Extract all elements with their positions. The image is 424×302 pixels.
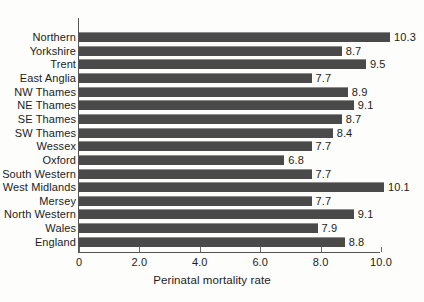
x-tick-label: 4.0 [192,256,208,268]
bar [79,87,348,97]
bar-value-label: 8.8 [349,235,365,249]
bar-value-label: 7.9 [322,221,338,235]
category-label: West Midlands [0,180,76,194]
bar-row: West Midlands10.1 [0,180,424,194]
bar-value-label: 8.4 [337,126,353,140]
bar-row: South Western7.7 [0,167,424,181]
bar-value-label: 9.5 [370,57,386,71]
category-label: Mersey [0,194,76,208]
bar-row: England8.8 [0,235,424,249]
x-tick [260,247,261,252]
bar-value-label: 6.8 [288,153,304,167]
x-tick-label: 8.0 [313,256,329,268]
bar [79,141,312,151]
bar-row: Wales7.9 [0,221,424,235]
bar [79,182,384,192]
bar-value-label: 7.7 [316,167,332,181]
bar-value-label: 7.7 [316,139,332,153]
bar-row: Northern10.3 [0,30,424,44]
bar [79,46,342,56]
x-tick [139,247,140,252]
bar-value-label: 10.1 [388,180,410,194]
bar [79,169,312,179]
x-tick [321,247,322,252]
bar-value-label: 9.1 [358,98,374,112]
x-tick-label: 6.0 [252,256,268,268]
x-tick [381,247,382,252]
x-axis-title: Perinatal mortality rate [0,274,424,286]
bar [79,128,333,138]
bar-row: East Anglia7.7 [0,71,424,85]
category-label: Trent [0,57,76,71]
category-label: Wales [0,221,76,235]
bar-value-label: 8.7 [346,112,362,126]
bar [79,32,390,42]
bar [79,196,312,206]
bar-row: Mersey7.7 [0,194,424,208]
bar-value-label: 8.9 [352,85,368,99]
bar-value-label: 8.7 [346,44,362,58]
bar-row: SE Thames8.7 [0,112,424,126]
bar-value-label: 7.7 [316,194,332,208]
bar-row: NE Thames9.1 [0,98,424,112]
bar [79,237,345,247]
category-label: NE Thames [0,98,76,112]
category-label: South Western [0,167,76,181]
category-label: North Western [0,207,76,221]
category-label: Northern [0,30,76,44]
bar [79,155,284,165]
x-axis-line [78,252,380,253]
category-label: Oxford [0,153,76,167]
bar [79,223,318,233]
bar [79,209,354,219]
bar-row: Yorkshire8.7 [0,44,424,58]
x-tick-label: 10.0 [370,256,392,268]
x-tick [200,247,201,252]
bar-row: Wessex7.7 [0,139,424,153]
bar-value-label: 10.3 [394,30,416,44]
bar-value-label: 9.1 [358,207,374,221]
x-tick-label: 2.0 [132,256,148,268]
bar-row: SW Thames8.4 [0,126,424,140]
bar [79,100,354,110]
category-label: NW Thames [0,85,76,99]
bar-value-label: 7.7 [316,71,332,85]
bar-row: North Western9.1 [0,207,424,221]
category-label: England [0,235,76,249]
x-tick [79,247,80,252]
category-label: Wessex [0,139,76,153]
bar-chart: Northern10.3Yorkshire8.7Trent9.5East Ang… [0,0,424,302]
category-label: Yorkshire [0,44,76,58]
category-label: SE Thames [0,112,76,126]
bar-row: Oxford6.8 [0,153,424,167]
bar-row: NW Thames8.9 [0,85,424,99]
bar [79,73,312,83]
bar [79,114,342,124]
category-label: SW Thames [0,126,76,140]
x-tick-label: 0 [76,256,82,268]
category-label: East Anglia [0,71,76,85]
bar [79,59,366,69]
bar-row: Trent9.5 [0,57,424,71]
